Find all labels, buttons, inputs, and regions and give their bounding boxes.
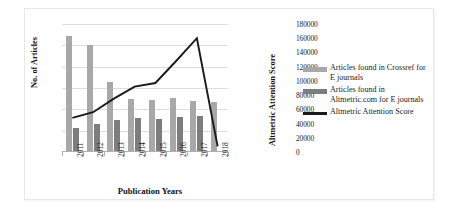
legend-line-swatch-icon [303,112,327,114]
y-tick-label-right: 20000 [296,133,314,142]
y-tick-label-right: 0 [296,148,300,157]
legend-item[interactable]: Articles found inAltmetric.com for E jou… [303,85,433,104]
x-tick-label: 2014 [138,142,147,157]
x-tick-label: 2012 [96,142,105,157]
x-tick-label: 2011 [76,142,85,157]
y-tick-label-right: 140000 [296,48,318,57]
x-tick-label: 2015 [159,142,168,157]
x-tick-label: 2017 [200,142,209,157]
legend-color-swatch-icon [303,89,327,94]
y-axis-title-left: No. of Articles [30,37,39,88]
legend-label: Altmetric Attention Score [330,107,433,117]
legend-label: Articles found in Crossref forE journals [330,63,433,82]
legend-color-swatch-icon [303,67,327,72]
y-axis-title-right: Altmetric Attention Score [268,54,277,146]
legend-item[interactable]: Articles found in Crossref forE journals [303,63,433,82]
x-tick-label: 2018 [221,142,230,157]
y-tick-label-right: 40000 [296,119,314,128]
chart-legend: Articles found in Crossref forE journals… [303,63,433,120]
x-tick-label: 2016 [179,142,188,157]
x-tick-label: 2013 [117,142,126,157]
x-axis-tick [62,152,63,156]
y-tick-label-right: 180000 [296,20,318,29]
legend-item[interactable]: Altmetric Attention Score [303,107,433,117]
y-axis-tick-labels-right: 1800001600001400001200001000008000060000… [62,24,228,152]
chart-figure: No. of Articles Altmetric Attention Scor… [0,0,461,215]
legend-label: Articles found inAltmetric.com for E jou… [330,85,433,104]
y-tick-label-right: 160000 [296,34,318,43]
x-axis-title: Publication Years [75,186,225,196]
